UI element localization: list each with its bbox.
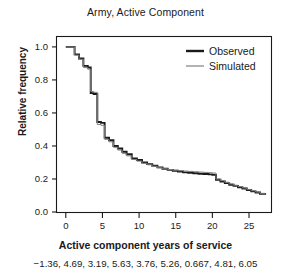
y-axis-ticks: 0.00.20.40.60.81.0 — [35, 41, 57, 217]
x-tick-label: 10 — [134, 220, 145, 231]
legend-label-simulated: Simulated — [209, 60, 256, 72]
x-tick-label: 5 — [100, 220, 105, 231]
y-tick-label: 0.2 — [35, 173, 48, 184]
x-tick-label: 25 — [244, 220, 255, 231]
y-tick-label: 0.0 — [35, 206, 48, 217]
y-tick-label: 0.6 — [35, 107, 48, 118]
chart-plot-area: 0.00.20.40.60.81.0 0510152025 ObservedSi… — [0, 0, 291, 236]
y-tick-label: 0.4 — [35, 140, 48, 151]
figure-container: Army, Active Component 0.00.20.40.60.81.… — [0, 0, 291, 278]
y-axis-label: Relative frequency — [17, 32, 28, 152]
x-tick-label: 20 — [207, 220, 218, 231]
legend-label-observed: Observed — [209, 45, 255, 57]
x-axis-ticks: 0510152025 — [63, 212, 254, 231]
y-tick-label: 1.0 — [35, 41, 48, 52]
x-axis-label: Active component years of service — [0, 239, 291, 251]
caption-values: −1.36, 4.69, 3.19, 5.63, 3.76, 5.26, 0.6… — [0, 258, 291, 269]
y-tick-label: 0.8 — [35, 74, 48, 85]
x-tick-label: 15 — [170, 220, 181, 231]
x-tick-label: 0 — [63, 220, 68, 231]
chart-legend: ObservedSimulated — [181, 41, 269, 73]
